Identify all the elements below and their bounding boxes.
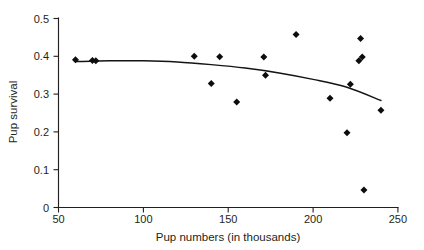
y-tick-label-0.2: 0.2 [34,126,49,138]
y-axis-title: Pup survival [7,81,19,144]
x-tick-label-250: 250 [389,213,407,225]
x-tick-label-100: 100 [134,213,152,225]
x-tick-label-50: 50 [52,213,64,225]
y-tick-label-0.4: 0.4 [34,50,49,62]
y-tick-label-0: 0 [43,202,49,214]
x-tick-label-200: 200 [304,213,322,225]
chart-figure: 0 0.1 0.2 0.3 0.4 0.5 50 100 150 200 250… [0,0,424,250]
y-tick-label-0.5: 0.5 [34,13,49,25]
y-tick-label-0.3: 0.3 [34,88,49,100]
y-tick-label-0.1: 0.1 [34,164,49,176]
x-axis-title: Pup numbers (in thousands) [156,231,301,243]
scatter-plot-canvas: 0 0.1 0.2 0.3 0.4 0.5 50 100 150 200 250… [0,0,424,250]
x-tick-label-150: 150 [219,213,237,225]
